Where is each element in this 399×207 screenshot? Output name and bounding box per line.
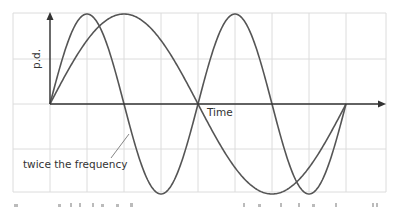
axes (47, 12, 387, 108)
annotation-label: twice the frequency (23, 158, 127, 170)
x-axis-label: Time (206, 106, 233, 118)
x-axis-arrow-icon (378, 101, 386, 108)
y-axis-label: p.d. (30, 49, 42, 69)
cut-off-caption (0, 201, 399, 207)
waveform-diagram: p.d. Time twice the frequency (0, 0, 399, 207)
diagram-canvas: p.d. Time twice the frequency (0, 0, 399, 207)
annotation-leader-line (111, 134, 129, 158)
